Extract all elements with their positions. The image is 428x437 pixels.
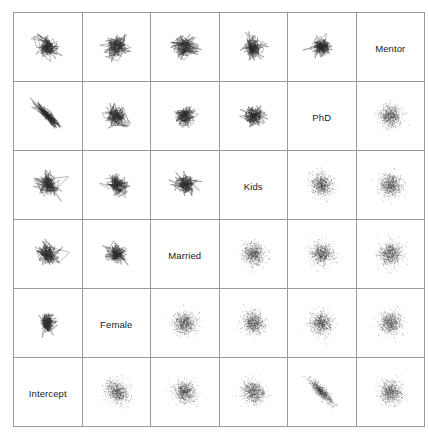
- scatterplot-matrix: MentorPhDKidsMarriedFemaleIntercept: [13, 12, 418, 420]
- trace-panel-kids-phd: [219, 82, 288, 151]
- trace-panel-intercept-kids: [14, 151, 83, 220]
- scatter-panel-intercept-female: [82, 358, 151, 427]
- scatter-panel-kids-mentor: [356, 151, 425, 220]
- trace-panel-married-kids: [151, 151, 220, 220]
- scatter-panel-married-phd: [288, 220, 357, 289]
- scatter-panel-married-kids: [219, 220, 288, 289]
- trace-panel-female-kids: [82, 151, 151, 220]
- diagonal-label: Mentor: [375, 43, 405, 54]
- diagonal-label: Intercept: [29, 388, 67, 399]
- matrix-row: Mentor: [14, 13, 425, 82]
- trace-panel-intercept-mentor: [14, 13, 83, 82]
- diagonal-label: Kids: [244, 181, 263, 192]
- matrix-grid: MentorPhDKidsMarriedFemaleIntercept: [13, 12, 425, 427]
- diagonal-label: Female: [100, 319, 132, 330]
- matrix-row: Kids: [14, 151, 425, 220]
- trace-panel-phd-mentor: [288, 13, 357, 82]
- diagonal-label-cell-married: Married: [151, 220, 220, 289]
- trace-panel-kids-mentor: [219, 13, 288, 82]
- diagonal-label-cell-intercept: Intercept: [14, 358, 83, 427]
- trace-panel-intercept-female: [14, 289, 83, 358]
- diagonal-label: Married: [168, 250, 201, 261]
- scatter-panel-female-married: [151, 289, 220, 358]
- matrix-row: Female: [14, 289, 425, 358]
- scatter-panel-female-mentor: [356, 289, 425, 358]
- trace-panel-female-phd: [82, 82, 151, 151]
- trace-panel-female-married: [82, 220, 151, 289]
- diagonal-label-cell-mentor: Mentor: [356, 13, 425, 82]
- scatter-panel-intercept-kids: [219, 358, 288, 427]
- matrix-row: Married: [14, 220, 425, 289]
- diagonal-label-cell-female: Female: [82, 289, 151, 358]
- trace-panel-intercept-married: [14, 220, 83, 289]
- scatter-panel-kids-phd: [288, 151, 357, 220]
- scatter-panel-intercept-phd: [288, 358, 357, 427]
- scatter-panel-married-mentor: [356, 220, 425, 289]
- scatter-panel-intercept-married: [151, 358, 220, 427]
- trace-panel-female-mentor: [82, 13, 151, 82]
- trace-panel-married-mentor: [151, 13, 220, 82]
- diagonal-label: PhD: [312, 112, 331, 123]
- scatter-panel-female-kids: [219, 289, 288, 358]
- scatter-panel-intercept-mentor: [356, 358, 425, 427]
- diagonal-label-cell-phd: PhD: [288, 82, 357, 151]
- scatter-panel-phd-mentor: [356, 82, 425, 151]
- matrix-row: Intercept: [14, 358, 425, 427]
- trace-panel-married-phd: [151, 82, 220, 151]
- trace-panel-intercept-phd: [14, 82, 83, 151]
- scatter-panel-female-phd: [288, 289, 357, 358]
- diagonal-label-cell-kids: Kids: [219, 151, 288, 220]
- matrix-row: PhD: [14, 82, 425, 151]
